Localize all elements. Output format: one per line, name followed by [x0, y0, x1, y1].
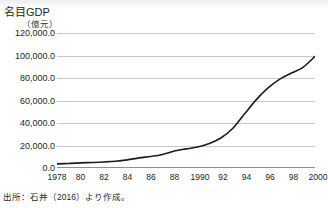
y-tick-label: 60,000.0: [1, 97, 55, 106]
gridline: [57, 146, 315, 147]
x-tick-label: 1978: [48, 172, 67, 182]
y-tick-label: 40,000.0: [1, 119, 55, 128]
gridline: [57, 101, 315, 102]
y-axis-tick-labels: 120,000.0 100,000.0 80,000.0 60,000.0 40…: [0, 33, 55, 168]
gridline: [57, 123, 315, 124]
gridline: [57, 33, 315, 34]
y-tick-label: 120,000.0: [1, 29, 55, 38]
x-tick-label: 2000: [309, 172, 328, 182]
x-tick-label: 86: [146, 172, 155, 182]
gridline: [57, 56, 315, 57]
figure-chart-nominal-gdp: 名目GDP （億元） 120,000.0 100,000.0 80,000.0 …: [0, 0, 328, 208]
x-tick-label: 98: [289, 172, 298, 182]
y-tick-label: 100,000.0: [1, 52, 55, 61]
x-tick-label: 82: [99, 172, 108, 182]
x-tick-label: 88: [170, 172, 179, 182]
source-note: 出所：石井（2016）より作成。: [3, 192, 130, 203]
x-tick-label: 94: [242, 172, 251, 182]
plot-area: [57, 33, 315, 168]
x-axis-baseline: [57, 167, 315, 168]
y-tick-label: 20,000.0: [1, 142, 55, 151]
x-tick-label: 80: [76, 172, 85, 182]
x-tick-label: 84: [123, 172, 132, 182]
gridline: [57, 78, 315, 79]
x-tick-label: 1990: [191, 172, 210, 182]
y-axis-title: 名目GDP: [4, 6, 50, 18]
x-tick-label: 92: [218, 172, 227, 182]
x-axis-tick-labels: 1978 80 82 84 86 88 1990 92 94 96 98 200…: [57, 172, 328, 186]
x-tick-label: 96: [265, 172, 274, 182]
y-tick-label: 80,000.0: [1, 74, 55, 83]
